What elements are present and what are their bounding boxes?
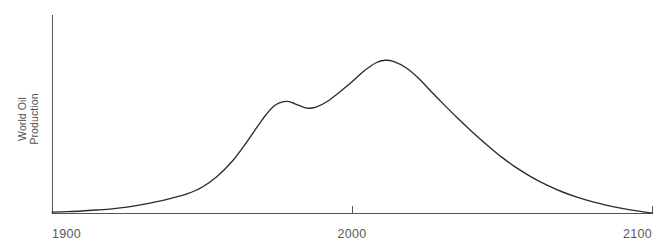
y-axis-title-line-1: World Oil bbox=[16, 97, 28, 141]
x-tick-label-1900: 1900 bbox=[52, 227, 81, 241]
y-axis-title-line-2: Production bbox=[28, 93, 40, 144]
data-curve-world-oil-production bbox=[52, 60, 652, 213]
x-tick-label-2000: 2000 bbox=[337, 227, 366, 241]
chart-canvas: 1900 2000 2100 World Oil Production bbox=[0, 0, 671, 246]
oil-production-chart: 1900 2000 2100 World Oil Production bbox=[0, 0, 671, 246]
y-axis-title: World Oil Production bbox=[16, 93, 40, 144]
x-tick-label-2100: 2100 bbox=[623, 227, 652, 241]
